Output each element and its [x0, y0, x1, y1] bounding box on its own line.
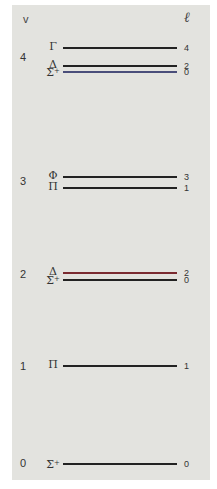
angular-momentum-label: 1 [184, 361, 189, 371]
energy-level-line [63, 272, 177, 274]
state-symbol: Γ [45, 42, 61, 52]
angular-momentum-label: 0 [184, 275, 189, 285]
angular-momentum-label: 1 [184, 183, 189, 193]
angular-momentum-label: 0 [184, 67, 189, 77]
angular-momentum-label: 4 [184, 43, 189, 53]
energy-level-line [63, 187, 177, 189]
state-symbol: Π [45, 182, 61, 192]
vibrational-quantum-number-v0: 0 [20, 457, 26, 469]
angular-momentum-label: 3 [184, 172, 189, 182]
state-symbol: Σ+ [45, 274, 61, 286]
energy-level-line [63, 365, 177, 367]
energy-level-line [63, 65, 177, 67]
energy-level-line [63, 463, 177, 465]
energy-level-line [63, 279, 177, 281]
vibrational-quantum-number-v4: 4 [20, 51, 26, 63]
vibrational-quantum-number-v3: 3 [20, 175, 26, 187]
energy-level-line [63, 71, 177, 73]
state-symbol: Π [45, 360, 61, 370]
diagram-panel [12, 5, 210, 480]
l-axis-header: ℓ [184, 9, 190, 26]
vibrational-quantum-number-v2: 2 [20, 268, 26, 280]
state-symbol: Σ+ [45, 66, 61, 78]
v-axis-header: v [23, 13, 29, 25]
state-symbol: Σ+ [45, 458, 61, 470]
angular-momentum-label: 0 [184, 459, 189, 469]
vibrational-quantum-number-v1: 1 [20, 360, 26, 372]
energy-level-line [63, 176, 177, 178]
energy-level-line [63, 47, 177, 49]
